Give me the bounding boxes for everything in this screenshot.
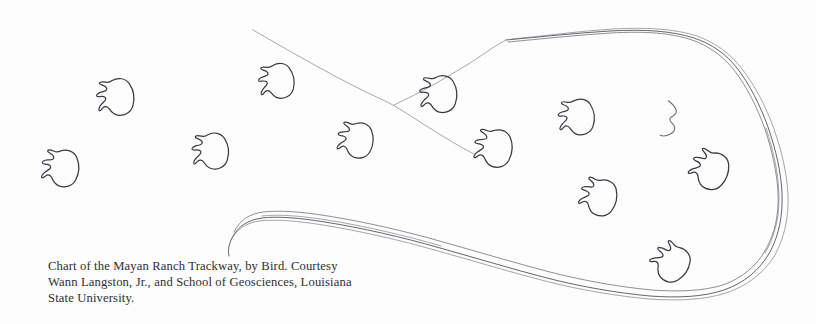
track-10: [685, 145, 734, 194]
figure-page: Chart of the Mayan Ranch Trackway, by Bi…: [0, 0, 816, 324]
track-01: [95, 77, 137, 118]
track-07: [473, 128, 514, 169]
track-04: [256, 61, 296, 101]
figure-caption: Chart of the Mayan Ranch Trackway, by Bi…: [48, 258, 388, 307]
survey-line-branch: [394, 40, 506, 105]
caption-line-2: Wann Langston, Jr., and School of Geosci…: [48, 274, 388, 290]
survey-lines-group: [253, 30, 506, 154]
track-12: [645, 237, 696, 288]
caption-line-3: State University.: [48, 290, 388, 306]
footprint-tracks-group: [41, 61, 734, 288]
track-09-partial: [660, 100, 679, 137]
track-06: [419, 75, 458, 114]
track-05: [336, 121, 375, 160]
caption-line-1: Chart of the Mayan Ranch Trackway, by Bi…: [48, 258, 388, 274]
track-02: [41, 149, 80, 188]
survey-line-main: [253, 30, 474, 154]
contour-top-main: [228, 30, 782, 297]
track-03: [191, 132, 231, 172]
track-08: [557, 98, 596, 137]
track-11: [576, 175, 620, 219]
